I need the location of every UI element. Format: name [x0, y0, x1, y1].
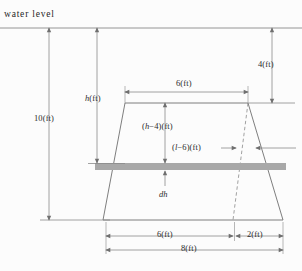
base-total-label: 8(ft) [181, 244, 197, 253]
base-inner-label: 6(ft) [157, 230, 173, 239]
strip-extra-rest: −6)(ft) [177, 142, 200, 152]
total-depth-label: 10(ft) [34, 114, 54, 123]
dam-cross-section-diagram: water level 10(ft) h(ft) 4(ft) 6(ft) (h−… [0, 0, 302, 271]
strip-above-rest: −4)(ft) [149, 121, 172, 131]
depth-h-label: h(ft) [85, 94, 101, 103]
depth-h-unit: (ft) [89, 93, 100, 103]
strip-half-extra-label: (l−6)(ft) [172, 143, 201, 152]
strip-above-label: (h−4)(ft) [142, 122, 173, 131]
dam-trapezoid-outline [103, 103, 283, 220]
freeboard-label: 4(ft) [258, 60, 274, 69]
top-width-label: 6(ft) [176, 79, 192, 88]
differential-strip [95, 163, 286, 170]
base-outer-label: 2(ft) [247, 230, 263, 239]
strip-thickness-label: dh [159, 190, 168, 199]
water-level-label: water level [4, 10, 55, 20]
dh-h: h [163, 189, 167, 199]
dashed-reference-line [233, 103, 248, 220]
